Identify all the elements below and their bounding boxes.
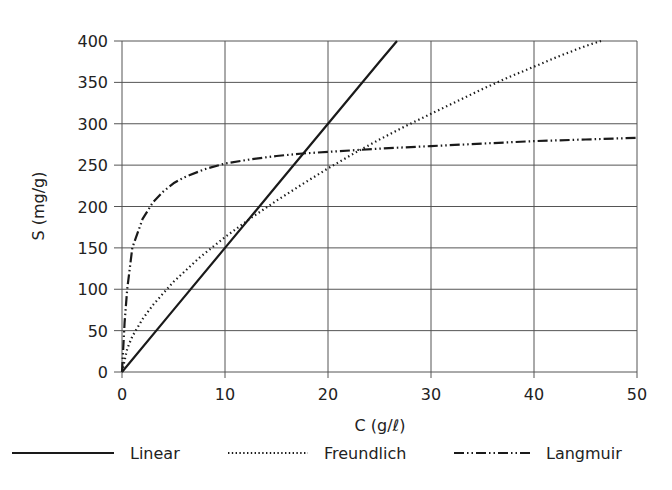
y-tick-label: 150 xyxy=(77,239,108,258)
dash-dot-dot-line-swatch-icon xyxy=(452,448,532,458)
y-tick-label: 350 xyxy=(77,73,108,92)
y-tick-label: 300 xyxy=(77,115,108,134)
x-tick-label: 50 xyxy=(627,385,647,404)
y-tick-label: 50 xyxy=(88,322,108,341)
x-tick-label: 40 xyxy=(524,385,544,404)
x-axis-label: C (g/ℓ) xyxy=(355,416,406,435)
y-tick-label: 200 xyxy=(77,198,108,217)
series-langmuir xyxy=(122,138,637,372)
y-tick-label: 100 xyxy=(77,280,108,299)
legend-item-linear: Linear xyxy=(10,438,180,468)
dotted-line-swatch-icon xyxy=(226,448,310,458)
x-tick-label: 0 xyxy=(117,385,127,404)
y-axis-label: S (mg/g) xyxy=(29,171,48,240)
y-tick-label: 400 xyxy=(77,32,108,51)
y-tick-label: 250 xyxy=(77,156,108,175)
legend-item-freundlich: Freundlich xyxy=(226,438,406,468)
y-tick-label: 0 xyxy=(98,363,108,382)
x-tick-label: 20 xyxy=(318,385,338,404)
legend-item-langmuir: Langmuir xyxy=(452,438,622,468)
legend-label: Linear xyxy=(130,444,180,463)
grid-lines xyxy=(114,41,637,378)
x-tick-label: 10 xyxy=(215,385,235,404)
y-axis-ticks: 050100150200250300350400 xyxy=(77,32,108,382)
adsorption-isotherm-chart: 050100150200250300350400 01020304050 C (… xyxy=(0,0,672,490)
legend-label: Langmuir xyxy=(546,444,622,463)
legend: Linear Freundlich Langmuir xyxy=(0,438,672,468)
x-axis-ticks: 01020304050 xyxy=(117,385,647,404)
legend-label: Freundlich xyxy=(324,444,406,463)
x-tick-label: 30 xyxy=(421,385,441,404)
solid-line-swatch-icon xyxy=(10,448,116,458)
